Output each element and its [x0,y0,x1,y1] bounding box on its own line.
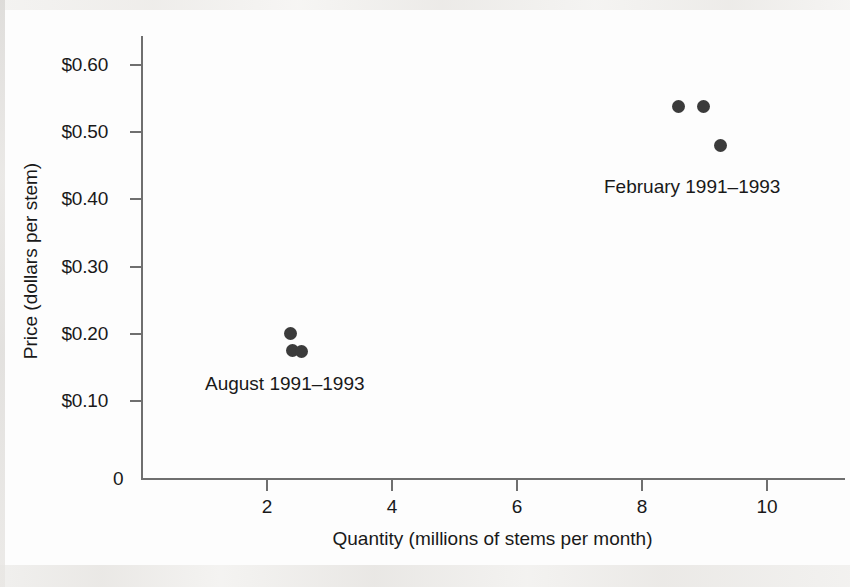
x-axis-title: Quantity (millions of stems per month) [0,528,850,550]
x-tick-label: 8 [612,496,672,518]
x-tick-mark [266,479,268,491]
x-axis-line [141,478,845,480]
scatter-plot-figure: $0.60 $0.50 $0.40 $0.30 $0.20 $0.10 0 2 … [0,0,850,587]
x-tick-mark [641,479,643,491]
data-point [714,139,727,152]
x-tick-mark [391,479,393,491]
data-point [284,327,297,340]
data-point [672,100,685,113]
y-tick-mark [130,400,142,402]
origin-label: 0 [113,468,124,490]
y-tick-mark [130,333,142,335]
y-tick-mark [130,131,142,133]
x-tick-mark [766,479,768,491]
x-tick-label: 2 [237,496,297,518]
x-tick-label: 4 [362,496,422,518]
x-tick-label: 10 [737,496,797,518]
plot-area: $0.60 $0.50 $0.40 $0.30 $0.20 $0.10 0 2 … [0,0,850,587]
data-point [295,345,308,358]
y-axis-line [141,36,143,480]
y-axis-title: Price (dollars per stem) [20,126,42,396]
x-tick-mark [516,479,518,491]
annotation-february: February 1991–1993 [604,176,780,198]
y-tick-mark [130,266,142,268]
annotation-august: August 1991–1993 [205,373,365,395]
y-tick-label: $0.60 [22,54,108,76]
data-point [697,100,710,113]
x-tick-label: 6 [487,496,547,518]
y-tick-mark [130,64,142,66]
y-tick-mark [130,198,142,200]
